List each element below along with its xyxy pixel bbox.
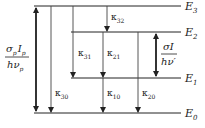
pump-rate-label: σpIp hνp	[5, 43, 29, 73]
level-e3-label: E3	[184, 0, 198, 15]
stimulated-rate-label: σI hν′	[161, 41, 177, 67]
level-e2-label: E2	[184, 26, 198, 41]
level-e1-label: E1	[184, 72, 198, 87]
svg-text:κ32: κ32	[111, 12, 124, 24]
level-e0-label: E0	[184, 107, 198, 122]
decay-k32: κ32	[107, 6, 124, 31]
svg-text:hνp: hνp	[7, 59, 24, 73]
svg-text:σpIp: σpIp	[6, 43, 26, 57]
svg-text:hν′: hν′	[161, 56, 177, 67]
decay-k21: κ21	[103, 32, 120, 77]
energy-level-diagram: E3 E2 E1 E0 σpIp hνp κ30 κ31 κ32 κ21 κ10…	[0, 0, 205, 128]
svg-text:κ31: κ31	[78, 48, 91, 60]
decay-k10: κ10	[103, 78, 120, 112]
decay-k30: κ30	[51, 6, 68, 112]
svg-text:κ30: κ30	[55, 88, 68, 100]
svg-text:κ10: κ10	[107, 88, 120, 100]
svg-text:κ20: κ20	[142, 88, 155, 100]
svg-text:σI: σI	[163, 41, 175, 52]
decay-k31: κ31	[73, 6, 91, 77]
decay-k20: κ20	[138, 32, 155, 112]
svg-text:κ21: κ21	[107, 48, 120, 60]
